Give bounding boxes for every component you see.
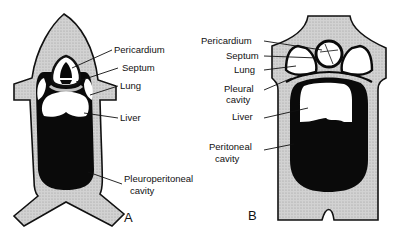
label-pleural-b: Pleural bbox=[224, 83, 254, 94]
label-pericardium-b: Pericardium bbox=[201, 35, 252, 46]
label-pleural-cavity-b: cavity bbox=[226, 94, 251, 105]
panel-b-letter: B bbox=[248, 208, 257, 223]
panel-a: Pericardium Septum Lung Liver Pleuroperi… bbox=[14, 14, 193, 226]
label-lung-a: Lung bbox=[120, 80, 141, 91]
label-liver-a: Liver bbox=[120, 112, 141, 123]
label-pleuroperitoneal-cavity-a: cavity bbox=[130, 185, 155, 196]
label-pleuroperitoneal-a: Pleuroperitoneal bbox=[124, 173, 193, 184]
label-lung-b: Lung bbox=[234, 64, 255, 75]
label-septum-a: Septum bbox=[122, 62, 155, 73]
label-pericardium-a: Pericardium bbox=[114, 44, 165, 55]
label-septum-b: Septum bbox=[226, 50, 259, 61]
label-peritoneal-cavity-b: cavity bbox=[215, 153, 240, 164]
panel-b-liver bbox=[300, 83, 352, 122]
panel-a-letter: A bbox=[124, 210, 133, 225]
label-liver-b: Liver bbox=[232, 111, 253, 122]
body-cavity-diagram: Pericardium Septum Lung Liver Pleuroperi… bbox=[0, 0, 398, 234]
label-peritoneal-b: Peritoneal bbox=[209, 141, 252, 152]
panel-b: Pericardium Septum Lung Pleural cavity L… bbox=[201, 16, 386, 223]
